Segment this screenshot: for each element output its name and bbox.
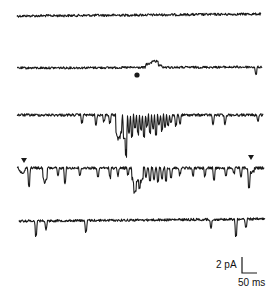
- trace-1: [17, 13, 261, 17]
- end-arrowhead-icon: [248, 155, 254, 160]
- current-traces-figure: 2 pA 50 ms: [0, 0, 276, 296]
- scale-bar-time-label: 50 ms: [238, 278, 265, 288]
- scale-bar-current-label: 2 pA: [216, 260, 237, 270]
- trace-4: [17, 167, 264, 194]
- event-dot-icon: [134, 72, 139, 77]
- start-arrowhead-icon: [21, 158, 27, 163]
- traces-plot: [0, 0, 276, 296]
- trace-3: [17, 114, 263, 158]
- trace-2: [17, 60, 262, 74]
- trace-5: [19, 218, 265, 237]
- scale-bar: [242, 257, 257, 273]
